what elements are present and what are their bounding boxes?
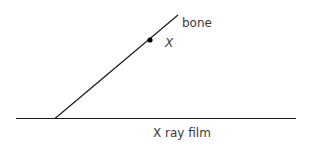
point-x-label: X: [165, 36, 173, 50]
xray-film-label: X ray film: [153, 126, 211, 140]
bone-line: [55, 15, 178, 119]
point-x-dot: [147, 37, 152, 42]
bone-label: bone: [182, 16, 212, 30]
